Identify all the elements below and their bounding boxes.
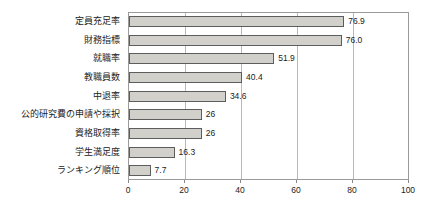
bar-value-label: 16.3 xyxy=(179,146,196,159)
category-label: 財務指標 xyxy=(84,31,120,50)
category-label: 学生満足度 xyxy=(75,143,120,162)
category-label: 教職員数 xyxy=(84,68,120,87)
x-axis-tick xyxy=(408,180,409,183)
x-axis-tick-label: 60 xyxy=(291,185,300,196)
category-label: 定員充足率 xyxy=(75,12,120,31)
bar-value-label: 40.4 xyxy=(246,71,263,84)
category-label: 公的研究費の申請や採択 xyxy=(21,105,120,124)
category-label: 中退率 xyxy=(93,87,120,106)
bar-value-label: 51.9 xyxy=(278,52,295,65)
bar-value-label: 76.0 xyxy=(346,34,363,47)
bar[interactable] xyxy=(129,91,226,102)
x-axis-tick-label: 80 xyxy=(347,185,356,196)
bar-value-label: 76.9 xyxy=(348,15,365,28)
bar-row: 26 xyxy=(129,106,408,125)
bar-chart: 定員充足率 財務指標 就職率 教職員数 中退率 公的研究費の申請や採択 資格取得… xyxy=(0,0,432,212)
bar[interactable] xyxy=(129,16,344,27)
plot-area: 76.9 76.0 51.9 40.4 34.6 26 26 16.3 xyxy=(128,12,409,180)
bar-value-label: 26 xyxy=(206,108,215,121)
bar[interactable] xyxy=(129,109,202,120)
x-axis: 0 20 40 60 80 100 xyxy=(128,180,409,202)
bar[interactable] xyxy=(129,128,202,139)
bar-row: 7.7 xyxy=(129,162,408,181)
bar-row: 16.3 xyxy=(129,144,408,163)
bar-row: 40.4 xyxy=(129,69,408,88)
x-axis-tick xyxy=(184,180,185,183)
bar-row: 51.9 xyxy=(129,50,408,69)
x-axis-tick-label: 0 xyxy=(126,185,131,196)
bar-row: 34.6 xyxy=(129,88,408,107)
x-axis-tick xyxy=(128,180,129,183)
bar-row: 76.9 xyxy=(129,13,408,32)
bar-value-label: 34.6 xyxy=(230,90,247,103)
bar[interactable] xyxy=(129,165,151,176)
bar-value-label: 7.7 xyxy=(155,164,167,177)
x-axis-tick xyxy=(352,180,353,183)
bar-row: 26 xyxy=(129,125,408,144)
bar[interactable] xyxy=(129,35,342,46)
x-axis-tick-label: 20 xyxy=(179,185,188,196)
x-axis-tick xyxy=(296,180,297,183)
bar[interactable] xyxy=(129,53,274,64)
category-label: 就職率 xyxy=(93,49,120,68)
x-axis-tick-label: 100 xyxy=(401,185,415,196)
category-axis-labels: 定員充足率 財務指標 就職率 教職員数 中退率 公的研究費の申請や採択 資格取得… xyxy=(0,12,124,180)
bar-row: 76.0 xyxy=(129,32,408,51)
bar[interactable] xyxy=(129,72,242,83)
bar[interactable] xyxy=(129,147,175,158)
x-axis-tick xyxy=(240,180,241,183)
category-label: ランキング順位 xyxy=(57,161,120,180)
category-label: 資格取得率 xyxy=(75,124,120,143)
x-axis-tick-label: 40 xyxy=(235,185,244,196)
bar-value-label: 26 xyxy=(206,127,215,140)
